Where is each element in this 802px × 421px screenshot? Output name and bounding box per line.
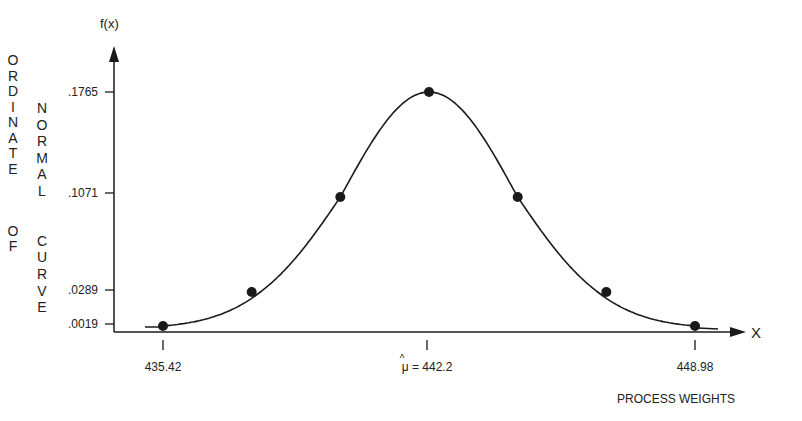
y-tick-label: .1765 — [68, 85, 98, 99]
data-point — [690, 321, 700, 331]
x-ticks: 435.42 μ = 442.2 ^ 448.98 — [145, 340, 714, 374]
x-tick-label-mean: μ = 442.2 — [402, 360, 453, 374]
mean-value: = 442.2 — [412, 360, 453, 374]
y-axis-symbol: f(x) — [100, 16, 119, 31]
right-tail-stub — [698, 328, 718, 329]
x-tick-label: 448.98 — [677, 360, 714, 374]
y-axis-arrow-icon — [109, 46, 119, 62]
x-axis-arrow-icon — [730, 327, 746, 337]
data-point — [158, 321, 168, 331]
y-ticks: .1765 .1071 .0289 .0019 — [68, 85, 114, 331]
normal-curve-line — [163, 92, 697, 326]
mean-hat: ^ — [400, 353, 405, 364]
x-axis-symbol: X — [751, 324, 761, 341]
data-point — [513, 192, 523, 202]
data-point — [601, 287, 611, 297]
x-axis-title: PROCESS WEIGHTS — [617, 392, 735, 406]
x-tick-label: 435.42 — [145, 360, 182, 374]
data-point — [335, 192, 345, 202]
data-points — [158, 87, 700, 331]
y-tick-label: .1071 — [68, 186, 98, 200]
y-tick-label: .0289 — [68, 283, 98, 297]
normal-curve-chart: f(x) X .1765 .1071 .0289 .0019 435.42 μ … — [0, 0, 802, 421]
y-tick-label: .0019 — [68, 317, 98, 331]
data-point — [247, 287, 257, 297]
data-point — [424, 87, 434, 97]
